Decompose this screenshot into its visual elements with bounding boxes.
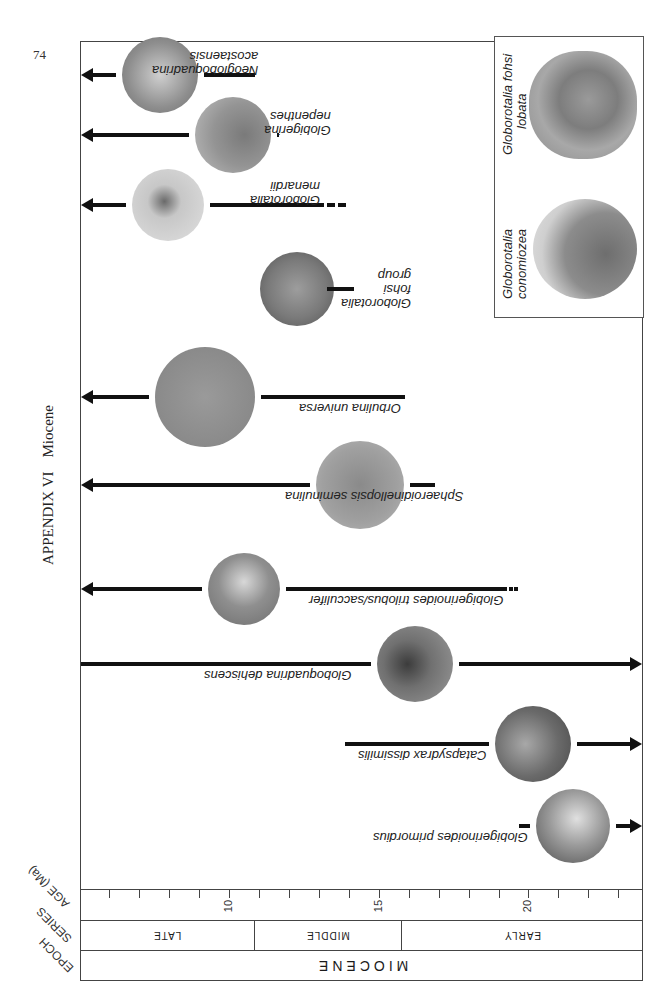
age-tick: [109, 890, 110, 898]
fossil-image-globigerinoides-trilobus-sacculifer: [208, 553, 280, 625]
arrow-left-icon: [81, 582, 93, 596]
range-bar-uncertain: [338, 203, 346, 207]
taxon-label-line: Globorotalia: [341, 296, 411, 310]
age-tick: [349, 890, 350, 898]
fossil-image-catapsydrax-dissimilis: [495, 706, 571, 782]
age-tick: [379, 890, 380, 898]
range-bar: [93, 483, 310, 487]
inset-fossil-conomiozea: [533, 199, 637, 299]
age-tick: [439, 890, 440, 898]
taxon-label-line: Globorotalia: [250, 193, 320, 207]
arrow-right-icon: [630, 657, 642, 671]
taxon-label: Globigerinanepenthes: [256, 109, 331, 137]
age-tick: [289, 890, 290, 898]
range-bar: [93, 73, 116, 77]
series-label: LATE: [153, 930, 181, 941]
range-bar: [81, 662, 371, 666]
age-tick: [588, 890, 589, 898]
taxon-label-line: Sphaeroidinellopsis seminulina: [285, 489, 464, 503]
epoch-row: MIOCENE: [81, 950, 642, 981]
arrow-left-icon: [81, 68, 93, 82]
range-bar: [577, 742, 630, 746]
taxon-label-line: menardii: [250, 179, 320, 193]
range-bar: [93, 203, 126, 207]
taxon-label: Orbulina universa: [299, 401, 401, 415]
range-bar: [261, 395, 405, 399]
age-tick: [409, 890, 410, 898]
taxon-label: Globorotaliamenardii: [250, 179, 320, 207]
age-tick: [499, 890, 500, 898]
taxon-label: Globigerinoides trilobus/sacculifer: [309, 593, 503, 607]
arrow-left-icon: [81, 390, 93, 404]
section-label: Miocene: [40, 405, 56, 457]
age-tick-label: 15: [372, 900, 384, 912]
taxon-label: Globigerinoides primordius: [373, 830, 528, 844]
series-cell-middle: MIDDLE: [254, 920, 402, 950]
age-row: 101520: [81, 890, 642, 921]
time-scale: 101520 LATEMIDDLEEARLY MIOCENE: [80, 889, 643, 981]
arrow-right-icon: [630, 819, 642, 833]
running-head: APPENDIX VIMiocene: [40, 405, 57, 565]
taxon-label-line: fohsi: [341, 282, 411, 296]
range-bar: [410, 483, 435, 487]
age-tick: [259, 890, 260, 898]
range-bar-uncertain: [514, 587, 518, 591]
arrow-left-icon: [81, 198, 93, 212]
age-tick-label: 10: [222, 900, 234, 912]
epoch-label: MIOCENE: [315, 958, 408, 974]
series-cell-early: EARLY: [401, 920, 644, 950]
taxon-label-line: nepenthes: [256, 109, 331, 123]
series-label: MIDDLE: [306, 930, 350, 941]
taxon-label-line: Globigerina: [256, 123, 331, 137]
fossil-image-orbulina-universa: [155, 347, 255, 447]
arrow-left-icon: [81, 128, 93, 142]
axis-title-series: SERIES: [33, 904, 74, 945]
age-tick: [469, 890, 470, 898]
range-bar: [616, 824, 630, 828]
fossil-image-globorotalia-fohsi-group: [260, 252, 334, 326]
taxon-label: Neogloboquadrinaacostaensis: [152, 49, 258, 77]
age-tick: [618, 890, 619, 898]
inset-label-conomiozea: Globorotalia conomiozea: [501, 229, 529, 299]
age-tick: [139, 890, 140, 898]
range-bar-uncertain: [327, 203, 335, 207]
range-bar: [93, 133, 189, 137]
taxon-label-line: Globigerinoides trilobus/sacculifer: [309, 593, 503, 607]
page-number: 74: [33, 47, 46, 63]
taxon-label-line: Globigerinoides primordius: [373, 830, 528, 844]
series-label: EARLY: [504, 930, 541, 941]
appendix-label: APPENDIX VI: [40, 472, 56, 565]
series-row: LATEMIDDLEEARLY: [81, 920, 642, 951]
taxon-label: Globoquadrina dehiscens: [204, 668, 351, 682]
axis-title-age: AGE (Ma): [25, 863, 73, 911]
range-bar: [459, 662, 630, 666]
taxon-label-line: Catapsydrax dissimilis: [358, 748, 487, 762]
fossil-image-globorotalia-menardii: [132, 169, 204, 241]
taxon-label: Sphaeroidinellopsis seminulina: [285, 489, 464, 503]
range-bar: [93, 587, 202, 591]
age-tick: [319, 890, 320, 898]
age-tick: [528, 890, 529, 898]
range-bar: [345, 742, 489, 746]
age-tick-label: 20: [521, 900, 533, 912]
fossil-image-globoquadrina-dehiscens: [377, 626, 453, 702]
taxon-label-line: Globoquadrina dehiscens: [204, 668, 351, 682]
fossil-image-sphaeroidinellopsis-seminulina: [316, 441, 404, 529]
fossil-image-globigerinoides-primordius: [536, 789, 610, 863]
arrow-right-icon: [630, 737, 642, 751]
range-bar: [519, 824, 530, 828]
range-bar-uncertain: [509, 587, 513, 591]
age-tick: [558, 890, 559, 898]
axis-title-epoch: EPOCH: [36, 935, 76, 975]
taxon-label-line: acostaensis: [152, 49, 258, 63]
series-cell-late: LATE: [81, 920, 255, 950]
inset-box: Globorotalia fohsi lobata Globorotalia c…: [494, 36, 644, 318]
age-tick: [169, 890, 170, 898]
age-tick: [229, 890, 230, 898]
inset-label-lobata: Globorotalia fohsi lobata: [501, 54, 529, 155]
inset-fossil-lobata: [529, 51, 637, 159]
age-tick: [199, 890, 200, 898]
range-bar: [93, 395, 149, 399]
taxon-label: Catapsydrax dissimilis: [358, 748, 487, 762]
taxon-label-line: Orbulina universa: [299, 401, 401, 415]
